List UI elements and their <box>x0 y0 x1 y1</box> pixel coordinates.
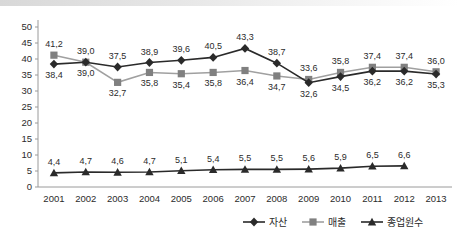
data-point-label: 35,4 <box>173 80 191 90</box>
series-1-marker <box>114 79 121 86</box>
x-tick-label: 2002 <box>75 193 96 204</box>
data-point-label: 4,4 <box>48 157 61 167</box>
data-point-label: 4,6 <box>111 156 124 166</box>
series-1-marker <box>178 70 185 77</box>
data-point-label: 5,6 <box>302 153 315 163</box>
line-chart: 05101520253035404550 2001200220032004200… <box>0 0 459 237</box>
x-tick-label: 2005 <box>171 193 192 204</box>
y-tick-label: 10 <box>21 149 32 160</box>
data-point-label: 41,2 <box>45 39 63 49</box>
data-point-label: 38,7 <box>268 47 286 57</box>
data-point-label: 36,4 <box>236 77 254 87</box>
series-1-marker <box>273 72 280 79</box>
x-tick-label: 2003 <box>107 193 128 204</box>
data-point-label: 38,9 <box>141 47 159 57</box>
data-point-label: 4,7 <box>143 156 156 166</box>
data-point-label: 35,8 <box>141 78 159 88</box>
data-point-label: 5,1 <box>175 155 188 165</box>
series-0-marker <box>113 63 121 72</box>
y-tick-label: 40 <box>21 53 32 64</box>
series-0-marker <box>273 59 281 68</box>
data-point-label: 5,4 <box>207 154 220 164</box>
y-tick-label: 50 <box>21 21 32 32</box>
legend-swatch-marker <box>309 218 316 225</box>
series-0-marker <box>177 56 185 65</box>
data-point-label: 43,3 <box>236 32 254 42</box>
series-1-marker <box>241 67 248 74</box>
data-point-label: 32,7 <box>109 88 127 98</box>
data-point-label: 39,0 <box>77 46 95 56</box>
x-tick-label: 2011 <box>362 193 382 204</box>
data-point-label: 4,7 <box>80 156 93 166</box>
data-point-label: 32,6 <box>300 89 318 99</box>
series-1-marker <box>146 69 153 76</box>
y-tick-label: 5 <box>27 165 32 176</box>
chart-legend: 자산매출종업원수 <box>243 216 423 228</box>
data-point-label: 36,2 <box>395 77 413 87</box>
legend-label: 자산 <box>269 217 287 228</box>
data-point-label: 6,6 <box>398 150 411 160</box>
y-axis: 05101520253035404550 <box>21 20 38 192</box>
data-point-label: 37,4 <box>364 51 382 61</box>
data-point-label: 37,4 <box>395 51 413 61</box>
data-point-label: 36,0 <box>427 56 445 66</box>
data-point-label: 38,4 <box>45 70 63 80</box>
legend-label: 매출 <box>328 217 346 228</box>
data-point-label: 35,8 <box>204 78 222 88</box>
data-point-label: 36,2 <box>364 77 382 87</box>
x-tick-label: 2012 <box>394 193 415 204</box>
x-tick-label: 2004 <box>139 193 160 204</box>
data-point-label: 33,6 <box>300 63 318 73</box>
series-line-2 <box>54 166 404 173</box>
legend-swatch-marker <box>250 218 258 227</box>
series-1-marker <box>210 69 217 76</box>
x-tick-label: 2001 <box>43 193 64 204</box>
x-tick-label: 2009 <box>298 193 319 204</box>
data-point-label: 39,6 <box>173 44 191 54</box>
data-point-label: 5,9 <box>334 152 347 162</box>
y-tick-label: 45 <box>21 37 32 48</box>
y-tick-label: 15 <box>21 133 32 144</box>
series-1-marker <box>50 52 57 59</box>
data-point-label: 35,3 <box>427 80 445 90</box>
series-0-marker <box>209 53 217 62</box>
y-tick-label: 0 <box>27 181 32 192</box>
y-tick-label: 20 <box>21 117 32 128</box>
y-tick-label: 25 <box>21 101 32 112</box>
data-point-label: 34,5 <box>332 83 350 93</box>
data-point-label: 6,5 <box>366 150 379 160</box>
series-0-marker <box>50 60 58 69</box>
data-point-label: 39,0 <box>77 68 95 78</box>
x-tick-label: 2008 <box>266 193 287 204</box>
data-point-label: 40,5 <box>204 41 222 51</box>
series-0-marker <box>145 58 153 67</box>
data-point-label: 5,5 <box>239 153 252 163</box>
data-point-label: 37,5 <box>109 51 127 61</box>
series-0-marker <box>241 44 249 53</box>
x-axis: 2001200220032004200520062007200820092010… <box>38 187 452 204</box>
x-tick-label: 2007 <box>234 193 255 204</box>
y-tick-label: 35 <box>21 69 32 80</box>
legend-label: 종업원수 <box>387 216 423 228</box>
x-tick-label: 2013 <box>426 193 447 204</box>
data-point-label: 5,5 <box>271 153 284 163</box>
data-point-label: 35,8 <box>332 56 350 66</box>
x-tick-label: 2006 <box>203 193 224 204</box>
y-tick-label: 30 <box>21 85 32 96</box>
data-point-label: 34,7 <box>268 82 286 92</box>
x-tick-label: 2010 <box>330 193 351 204</box>
